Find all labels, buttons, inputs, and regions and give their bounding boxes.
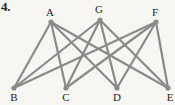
graph-node-d [114, 85, 119, 90]
graph-node-e [165, 85, 170, 90]
node-label-e: E [167, 92, 174, 103]
graph-edge-g-c [66, 20, 100, 88]
graph-node-c [63, 85, 68, 90]
node-label-b: B [10, 92, 17, 103]
graph-node-a [48, 19, 53, 24]
graph-node-f [153, 19, 158, 24]
node-label-f: F [152, 7, 158, 18]
node-label-g: G [95, 4, 103, 15]
node-label-c: C [62, 92, 69, 103]
graph-node-b [11, 85, 16, 90]
graph-edge-a-b [14, 22, 51, 88]
figure-container: 4. AGFBCDE [0, 0, 175, 105]
edges-group [14, 20, 168, 88]
graph-canvas [0, 0, 175, 105]
graph-edge-g-d [100, 20, 117, 88]
graph-edge-a-c [51, 22, 66, 88]
node-label-a: A [46, 7, 54, 18]
graph-node-g [97, 17, 102, 22]
node-label-d: D [113, 92, 121, 103]
